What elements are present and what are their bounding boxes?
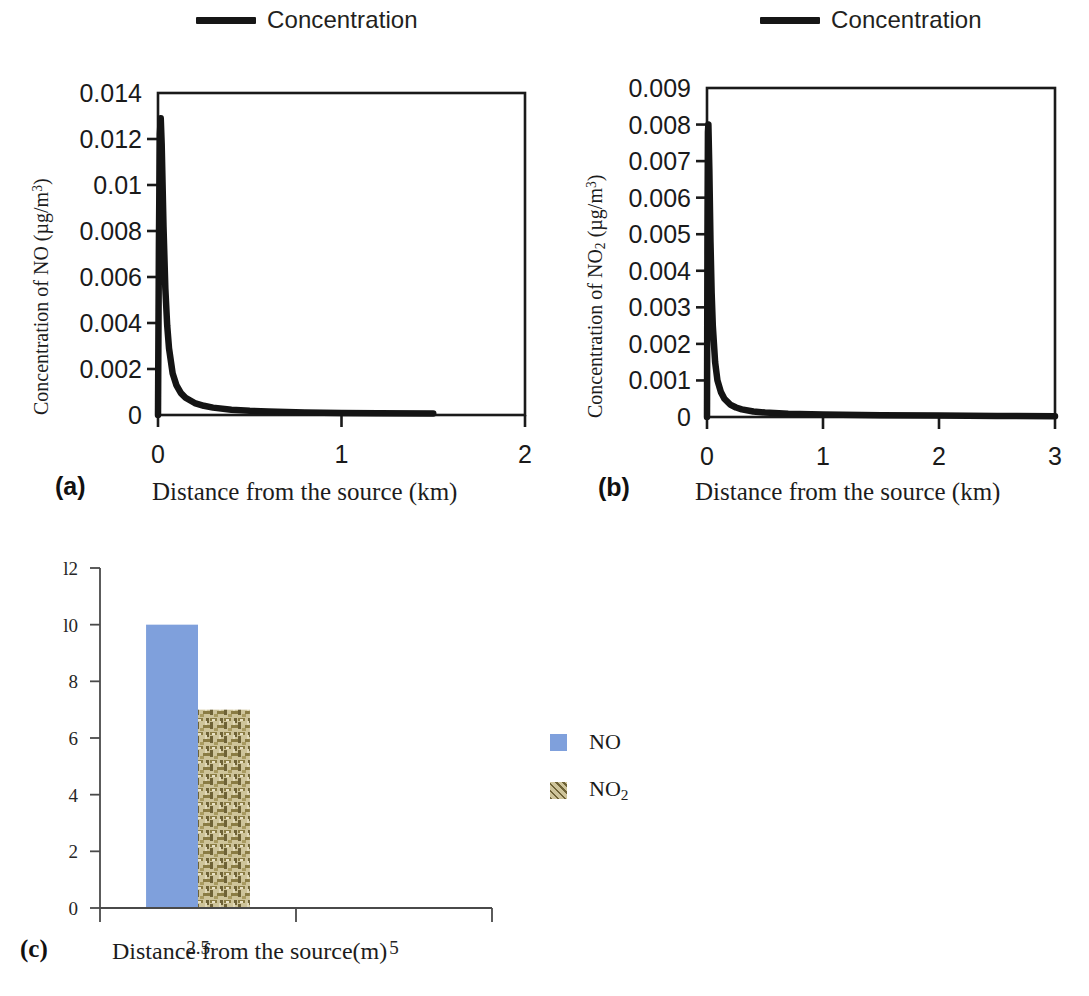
chart-b: 00.0010.0020.0030.0040.0050.0060.0070.00… [560, 0, 1089, 470]
y-tick-label: 4 [69, 785, 79, 806]
y-tick-label: 0.006 [79, 263, 142, 291]
x-tick-label: 1 [816, 442, 830, 470]
x-axis-title-a: Distance from the source (km) [152, 478, 457, 506]
y-tick-labels-c: 02468l0l2 [63, 558, 78, 919]
y-tick-label: l2 [63, 558, 78, 579]
y-tick-label: 0.004 [628, 257, 691, 285]
bar-no2-2.5 [198, 710, 250, 908]
legend-label-no2: NO2 [589, 776, 628, 804]
y-tick-label: 0.008 [79, 217, 142, 245]
x-tick-label: 5 [389, 937, 399, 958]
x-tick-label: 2 [518, 440, 532, 468]
x-tick-labels-a: 012 [151, 440, 532, 468]
x-axis-title-c: Distance from the source(m) [112, 938, 387, 965]
y-tick-label: 0 [128, 401, 142, 429]
x-tick-labels-b: 0123 [700, 442, 1062, 470]
y-tick-label: 8 [69, 671, 79, 692]
y-tick-label: 0.004 [79, 309, 142, 337]
data-curve-a [158, 118, 433, 415]
y-tick-label: 0.012 [79, 125, 142, 153]
y-tick-label: 0.008 [628, 111, 691, 139]
tick-marks-b [696, 125, 1055, 429]
x-tick-label: 2 [932, 442, 946, 470]
plot-frame-a [158, 93, 525, 415]
legend-c: NO NO2 [550, 718, 628, 814]
x-tick-label: 1 [335, 440, 349, 468]
legend-item-no: NO [550, 718, 628, 766]
y-tick-label: 0 [677, 403, 691, 431]
panel-b: Concentration Concentration of NO2 (µg/m… [560, 0, 1089, 530]
panel-a: Concentration Concentration of NO (µg/m3… [0, 0, 560, 530]
y-tick-label: 0.003 [628, 293, 691, 321]
y-tick-label: 6 [69, 728, 79, 749]
y-tick-labels-a: 00.0020.0040.0060.0080.010.0120.014 [79, 79, 142, 429]
x-tick-label: 0 [700, 442, 714, 470]
data-curve-b [707, 125, 1055, 417]
y-tick-label: 2 [69, 841, 79, 862]
chart-a: 00.0020.0040.0060.0080.010.0120.014 012 [0, 0, 560, 470]
panel-letter-a: (a) [55, 472, 86, 501]
y-tick-label: 0.007 [628, 147, 691, 175]
legend-label-no: NO [589, 729, 621, 755]
legend-item-no2: NO2 [550, 766, 628, 814]
x-axis-title-b: Distance from the source (km) [695, 478, 1000, 506]
x-tick-label: 0 [151, 440, 165, 468]
panel-c: Concentration of NOx (µg/m3) 02468l0l2 2… [0, 530, 1089, 996]
chart-c: 02468l0l2 2.55 [0, 550, 560, 950]
legend-swatch-no [550, 734, 567, 751]
plot-frame-b [707, 88, 1055, 417]
x-tick-label: 3 [1048, 442, 1062, 470]
panel-letter-b: (b) [598, 473, 630, 502]
tick-marks-a [147, 139, 525, 427]
y-tick-label: 0.001 [628, 366, 691, 394]
y-tick-labels-b: 00.0010.0020.0030.0040.0050.0060.0070.00… [628, 74, 691, 431]
y-tick-label: 0.006 [628, 184, 691, 212]
y-tick-label: 0.01 [93, 171, 142, 199]
legend-swatch-no2 [550, 782, 567, 799]
bar-no-2.5 [146, 625, 198, 908]
panel-letter-c: (c) [20, 935, 48, 963]
y-tick-label: 0.009 [628, 74, 691, 102]
y-tick-label: 0 [69, 898, 79, 919]
y-tick-label: l0 [63, 615, 78, 636]
y-tick-label: 0.002 [628, 330, 691, 358]
bars-c [146, 625, 250, 908]
y-tick-label: 0.002 [79, 355, 142, 383]
y-tick-label: 0.014 [79, 79, 142, 107]
y-tick-label: 0.005 [628, 220, 691, 248]
